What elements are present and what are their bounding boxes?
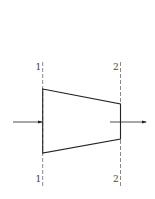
- nozzle-outline: [43, 89, 121, 153]
- section-2-bottom-label: 2: [113, 174, 119, 184]
- section-1-bottom-label: 1: [36, 174, 42, 184]
- section-1-top-label: 1: [36, 62, 42, 72]
- nozzle-diagram: 1 1 2 2: [0, 0, 155, 199]
- section-2-top-label: 2: [113, 62, 119, 72]
